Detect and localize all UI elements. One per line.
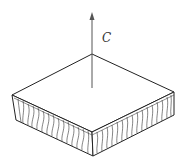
c-axis-arrowhead-icon xyxy=(90,12,95,20)
honeycomb-panel-diagram: C xyxy=(0,0,188,165)
c-axis-label: C xyxy=(102,31,111,45)
